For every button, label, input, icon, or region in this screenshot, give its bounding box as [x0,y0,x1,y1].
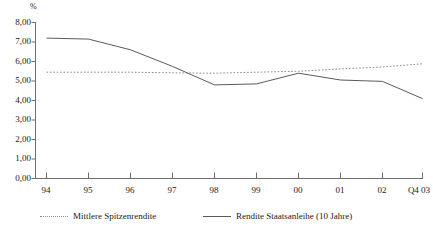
x-tick-label: 00 [294,186,303,195]
y-axis-ticks [32,23,36,179]
x-tick-label: 96 [126,186,135,195]
series-line-rendite-staatsanleihe [47,38,423,99]
x-tick-label: 02 [378,186,387,195]
legend-item-mittlere-spitzenrendite: Mittlere Spitzenrendite [40,209,156,223]
dotted-line-marker-icon [40,216,68,217]
x-tick-label: 99 [252,186,261,195]
legend-label: Mittlere Spitzenrendite [73,211,156,221]
axis-lines [35,22,423,179]
x-tick-label: 95 [84,186,93,195]
solid-line-marker-icon [203,216,231,217]
series-line-mittlere-spitzenrendite [47,64,423,73]
x-tick-label: 97 [168,186,177,195]
chart-legend: Mittlere Spitzenrendite Rendite Staatsan… [0,205,433,235]
x-tick-label: 98 [210,186,219,195]
x-tick-label: 01 [336,186,345,195]
x-tick-label: Q4 03 [408,186,430,195]
legend-label: Rendite Staatsanleihe (10 Jahre) [236,211,352,221]
x-axis-ticks [47,173,423,179]
legend-item-rendite-staatsanleihe: Rendite Staatsanleihe (10 Jahre) [203,209,352,223]
line-chart: % 8,00 7,00 6,00 5,00 4,00 3,00 2,00 1,0… [0,0,433,235]
plot-area [0,0,433,235]
x-tick-label: 94 [42,186,51,195]
